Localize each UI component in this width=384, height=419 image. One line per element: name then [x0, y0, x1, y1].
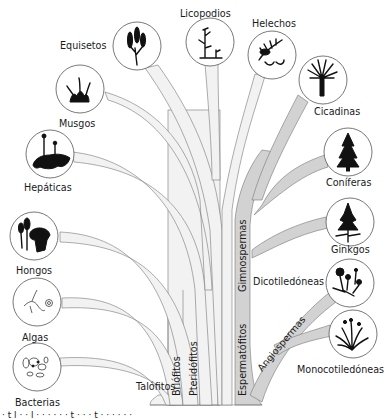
- label-dicotiledoneas: Dicotiledóneas: [253, 276, 324, 287]
- hepaticas-circle: [26, 130, 74, 178]
- label-equisetos: Equisetos: [60, 40, 106, 51]
- label-algas: Algas: [22, 332, 48, 343]
- label-ginkgos: Ginkgos: [331, 244, 370, 255]
- evolution-tree-diagram: Talófitos Briófitos Pteridófitos Esperma…: [0, 0, 384, 419]
- helechos-circle: [248, 31, 296, 79]
- node-cicadinas: Cicadinas: [299, 56, 360, 117]
- label-espermatofitos: Espermatófitos: [237, 324, 248, 396]
- label-coniferas: Coníferas: [326, 177, 371, 188]
- node-musgos: Musgos: [56, 65, 104, 129]
- node-bacterias: Bacterias: [13, 343, 61, 408]
- node-helechos: Helechos: [248, 18, 296, 79]
- node-ginkgos: Ginkgos: [326, 198, 374, 255]
- node-licopodios: Licopodios: [180, 8, 234, 66]
- licopodios-circle: [186, 18, 234, 66]
- algas-circle: [13, 278, 61, 326]
- cropped-caption: · t l · · l · · · · · · t · · · t · · · …: [2, 410, 132, 419]
- label-hepaticas: Hepáticas: [24, 182, 72, 193]
- node-dicotiledoneas: Dicotiledóneas: [253, 259, 374, 307]
- label-talofitos: Talófitos: [135, 381, 175, 392]
- label-helechos: Helechos: [252, 18, 296, 29]
- label-licopodios: Licopodios: [180, 8, 231, 19]
- label-briofitos: Briófitos: [171, 356, 182, 396]
- dicotiledoneas-circle: [326, 259, 374, 307]
- label-monocotiledoneas: Monocotiledóneas: [297, 364, 384, 375]
- label-gimnospermas: Gimnospermas: [237, 220, 248, 292]
- light-branches: [60, 62, 265, 405]
- node-equisetos: Equisetos: [60, 22, 161, 70]
- node-algas: Algas: [13, 278, 61, 343]
- node-hongos: Hongos: [10, 212, 58, 276]
- label-bacterias: Bacterias: [15, 397, 60, 408]
- monocotiledoneas-circle: [329, 310, 377, 358]
- branch-ginkgos: [252, 217, 328, 258]
- node-coniferas: Coníferas: [324, 128, 372, 188]
- bacterias-circle: [13, 343, 61, 391]
- label-cicadinas: Cicadinas: [314, 106, 360, 117]
- label-hongos: Hongos: [16, 265, 52, 276]
- label-pteridofitos: Pteridófitos: [188, 341, 199, 396]
- label-musgos: Musgos: [59, 118, 95, 129]
- node-hepaticas: Hepáticas: [24, 130, 74, 193]
